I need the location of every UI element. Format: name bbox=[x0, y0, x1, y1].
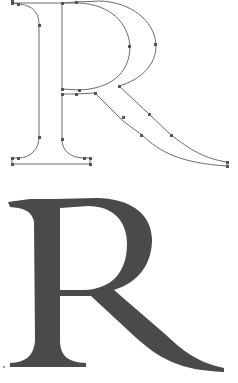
glyph-shape bbox=[8, 198, 224, 372]
bowl-counter bbox=[62, 3, 130, 90]
diagram-canvas bbox=[0, 0, 238, 383]
filled-letter-r bbox=[3, 198, 224, 372]
letter-r-diagram: R bbox=[0, 0, 238, 383]
anchor-points bbox=[11, 0, 229, 168]
outer-contour bbox=[12, 1, 227, 166]
stray-dot bbox=[3, 366, 5, 368]
outline-letter-r bbox=[11, 0, 229, 168]
